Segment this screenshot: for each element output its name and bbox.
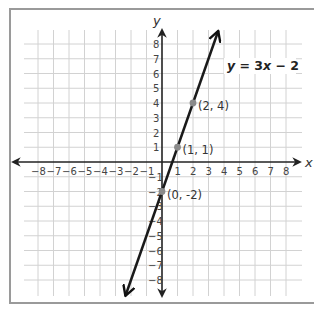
y-tick-label: 7 [153,54,159,65]
x-tick-label: 2 [190,166,196,177]
x-tick-label: 4 [221,166,227,177]
x-tick-label: −4 [93,166,108,177]
x-tick-label: 3 [206,166,212,177]
x-tick-label: −3 [109,166,124,177]
x-tick-label: −2 [124,166,139,177]
data-point [159,188,166,195]
y-tick-label: −6 [148,246,163,257]
coordinate-plane: xy −8−7−6−5−4−3−2−11234567887654321−1−2−… [0,0,314,311]
y-tick-label: 5 [153,83,159,94]
x-tick-label: 7 [268,166,274,177]
y-tick-label: 6 [153,69,159,80]
line-y-equals-3x-minus-2 [125,31,218,296]
axes: xy [13,13,313,296]
y-tick-label: 4 [153,98,159,109]
x-tick-label: −8 [31,166,46,177]
point-label: (1, 1) [183,143,214,157]
y-tick-label: 1 [153,142,159,153]
data-series [125,31,218,296]
data-point [190,100,197,107]
y-tick-label: 2 [153,128,159,139]
x-axis-label: x [304,155,313,170]
annotations: y = 3x − 2 [224,58,299,74]
x-tick-label: 6 [252,166,258,177]
y-tick-label: 8 [153,39,159,50]
y-tick-label: −7 [148,260,163,271]
y-tick-label: −8 [148,275,163,286]
x-tick-label: 8 [283,166,289,177]
y-axis-label: y [152,13,161,28]
point-label: (2, 4) [198,99,229,113]
x-tick-label: −7 [47,166,62,177]
point-label: (0, -2) [167,188,202,202]
data-point [174,144,181,151]
equation-label: y = 3x − 2 [227,58,299,73]
y-tick-label: 3 [153,113,159,124]
x-tick-label: −6 [62,166,77,177]
x-tick-label: −5 [78,166,93,177]
y-tick-label: −1 [148,172,163,183]
x-tick-label: 5 [237,166,243,177]
data-points: (2, 4)(1, 1)(0, -2) [159,99,229,202]
y-tick-label: −5 [148,231,163,242]
x-tick-label: 1 [175,166,181,177]
